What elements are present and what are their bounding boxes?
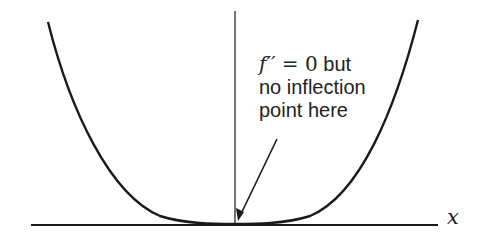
but-text: but: [318, 53, 351, 75]
annotation-arrow: [240, 139, 277, 216]
right-curve: [235, 20, 418, 224]
annotation-text: f′′ = 0 but no inflection point here: [259, 53, 366, 122]
x-axis-label: x: [447, 205, 459, 229]
zero-value: 0: [305, 52, 318, 76]
equals-sign: =: [275, 52, 304, 76]
f-double-prime: f′′: [259, 52, 275, 76]
annotation-line-2: no inflection: [259, 76, 366, 99]
annotation-line-1: f′′ = 0 but: [259, 53, 366, 76]
left-curve: [48, 22, 235, 224]
diagram-canvas: [0, 0, 487, 250]
annotation-line-3: point here: [259, 99, 366, 122]
